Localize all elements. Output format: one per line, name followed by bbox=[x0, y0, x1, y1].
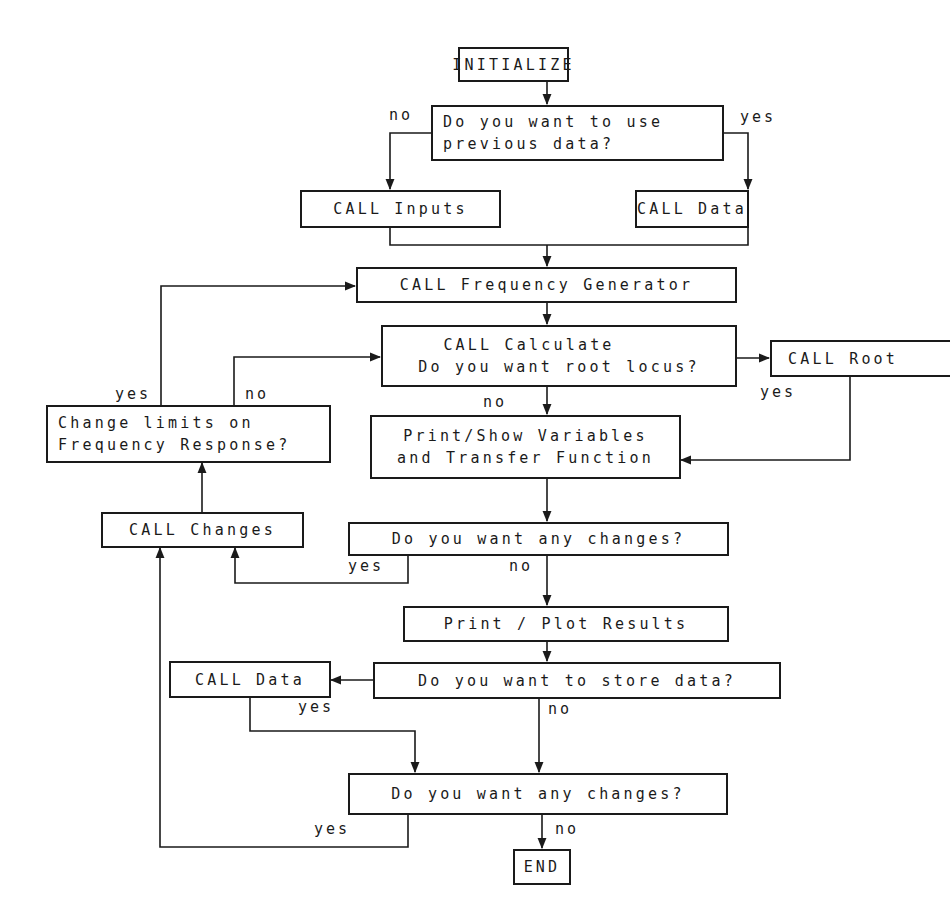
store-yes-label: yes bbox=[298, 698, 334, 716]
end-text: END bbox=[524, 856, 561, 878]
any-changes-1-text: Do you want any changes? bbox=[392, 528, 686, 550]
frequency-generator-box: CALL Frequency Generator bbox=[356, 267, 737, 303]
change-limits-line-2: Frequency Response? bbox=[58, 434, 290, 456]
root-yes-label: yes bbox=[760, 383, 796, 401]
change-limits-line-1: Change limits on bbox=[58, 412, 254, 434]
store-data-text: Do you want to store data? bbox=[418, 670, 736, 692]
store-data-decision: Do you want to store data? bbox=[373, 662, 781, 699]
use-previous-yes-label: yes bbox=[740, 108, 776, 126]
end-box: END bbox=[513, 849, 571, 885]
call-inputs-text: CALL Inputs bbox=[333, 198, 468, 220]
calculate-decision: CALL Calculate Do you want root locus? bbox=[381, 325, 737, 387]
call-data-bottom-box: CALL Data bbox=[169, 661, 331, 698]
call-changes-text: CALL Changes bbox=[129, 519, 276, 541]
call-data-top-box: CALL Data bbox=[635, 190, 749, 228]
calculate-line-1: CALL Calculate bbox=[443, 334, 614, 356]
changes-2-no-label: no bbox=[555, 820, 579, 838]
changes-2-yes-label: yes bbox=[314, 820, 350, 838]
frequency-generator-text: CALL Frequency Generator bbox=[400, 274, 694, 296]
use-previous-no-label: no bbox=[389, 106, 413, 124]
call-root-text: CALL Root bbox=[788, 348, 898, 370]
print-show-line-1: Print/Show Variables bbox=[403, 425, 648, 447]
any-changes-2-text: Do you want any changes? bbox=[391, 783, 685, 805]
call-data-bottom-text: CALL Data bbox=[195, 669, 305, 691]
store-no-label: no bbox=[548, 700, 572, 718]
call-inputs-box: CALL Inputs bbox=[300, 190, 501, 228]
root-no-label: no bbox=[483, 393, 507, 411]
use-previous-data-decision: Do you want to use previous data? bbox=[431, 105, 724, 161]
call-changes-box: CALL Changes bbox=[101, 512, 304, 548]
print-show-box: Print/Show Variables and Transfer Functi… bbox=[370, 415, 681, 479]
print-show-line-2: and Transfer Function bbox=[397, 447, 654, 469]
changes-1-yes-label: yes bbox=[348, 557, 384, 575]
changes-1-no-label: no bbox=[509, 557, 533, 575]
use-previous-line-2: previous data? bbox=[443, 133, 614, 155]
print-plot-box: Print / Plot Results bbox=[403, 606, 729, 642]
call-root-box: CALL Root bbox=[770, 340, 950, 377]
initialize-box: INITIALIZE bbox=[458, 47, 569, 82]
change-limits-yes-label: yes bbox=[115, 385, 151, 403]
print-plot-text: Print / Plot Results bbox=[444, 613, 689, 635]
use-previous-line-1: Do you want to use bbox=[443, 111, 663, 133]
any-changes-2-decision: Do you want any changes? bbox=[348, 773, 728, 815]
call-data-top-text: CALL Data bbox=[637, 198, 747, 220]
change-limits-no-label: no bbox=[245, 385, 269, 403]
calculate-line-2: Do you want root locus? bbox=[418, 356, 699, 378]
any-changes-1-decision: Do you want any changes? bbox=[348, 522, 729, 556]
change-limits-decision: Change limits on Frequency Response? bbox=[46, 405, 331, 463]
initialize-text: INITIALIZE bbox=[452, 54, 574, 76]
